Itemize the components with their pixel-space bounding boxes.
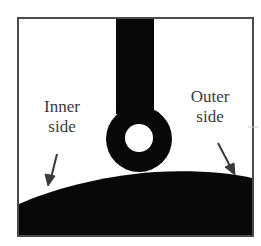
- outer-side-label-line1: Outer: [182, 87, 238, 107]
- inner-side-label-line1: Inner: [34, 97, 90, 117]
- outer-side-label: Outer side: [182, 87, 238, 127]
- droplet-core-highlight: [125, 124, 153, 152]
- inner-side-label-line2: side: [34, 117, 90, 137]
- droplet-contact-figure: Inner side Outer side: [0, 0, 261, 246]
- outer-side-label-line2: side: [182, 107, 238, 127]
- inner-side-label: Inner side: [34, 97, 90, 137]
- needle-stem: [116, 18, 154, 114]
